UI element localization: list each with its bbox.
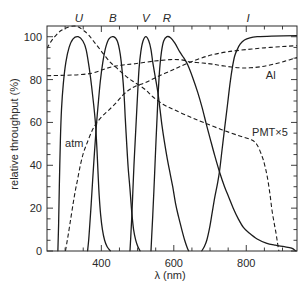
- band-label-b: B: [109, 12, 117, 24]
- y-tick-label: 0: [36, 245, 42, 257]
- curves-layer: [47, 26, 297, 251]
- annotation-al: Al: [266, 69, 276, 81]
- annotation-atm: atm: [65, 137, 83, 149]
- y-axis-label: relative throughput (%): [8, 78, 20, 189]
- throughput-chart: 400600800020406080100 UBVRI atmAlPMT×5 λ…: [0, 0, 308, 290]
- band-label-v: V: [142, 12, 151, 24]
- y-tick-label: 60: [30, 116, 42, 128]
- band-label-r: R: [163, 12, 171, 24]
- x-tick-label: 400: [92, 257, 110, 269]
- x-tick-label: 800: [237, 257, 255, 269]
- annotation-pmt-5: PMT×5: [252, 126, 288, 138]
- x-tick-label: 600: [165, 257, 183, 269]
- band-label-i: I: [246, 12, 250, 24]
- curve-al: [47, 58, 297, 76]
- x-axis-label: λ (nm): [154, 269, 185, 281]
- band-label-u: U: [75, 12, 84, 24]
- band-labels: UBVRI: [75, 12, 251, 24]
- y-tick-label: 40: [30, 159, 42, 171]
- y-tick-label: 100: [24, 31, 42, 43]
- curve-annotations: atmAlPMT×5: [65, 69, 288, 149]
- y-tick-label: 20: [30, 202, 42, 214]
- y-tick-label: 80: [30, 74, 42, 86]
